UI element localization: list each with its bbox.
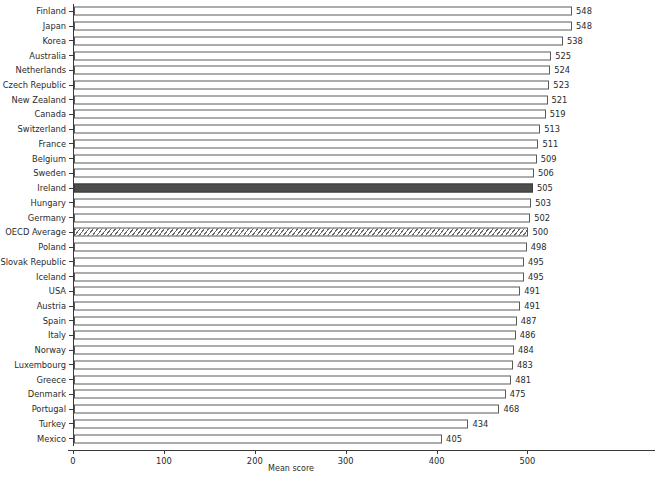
- bar-value-label: 525: [555, 51, 571, 60]
- bar-row: Finland548: [73, 4, 582, 19]
- bar-row: Korea538: [73, 33, 582, 48]
- bar-value-label: 500: [532, 228, 548, 237]
- y-tick: [69, 276, 73, 277]
- y-tick: [69, 40, 73, 41]
- bar: [74, 302, 520, 311]
- bar: [74, 95, 548, 104]
- y-tick: [69, 188, 73, 189]
- category-label: Belgium: [32, 154, 66, 163]
- category-label: Finland: [36, 7, 66, 16]
- y-tick: [69, 379, 73, 380]
- bar-row: Australia525: [73, 48, 582, 63]
- bar: [74, 272, 524, 281]
- category-label: Luxembourg: [14, 360, 66, 369]
- bar-row: Germany502: [73, 210, 582, 225]
- y-tick: [69, 335, 73, 336]
- y-tick: [69, 291, 73, 292]
- bar-row: Belgium509: [73, 151, 582, 166]
- bar-value-label: 548: [576, 7, 592, 16]
- category-label: Mexico: [37, 434, 66, 443]
- bar: [74, 213, 530, 222]
- category-label: Australia: [29, 51, 66, 60]
- bar-row: Italy486: [73, 328, 582, 343]
- bar-row: Austria491: [73, 299, 582, 314]
- bar: [74, 81, 549, 90]
- category-label: Hungary: [31, 198, 66, 207]
- y-tick: [69, 423, 73, 424]
- bar-value-label: 523: [553, 81, 569, 90]
- bar-row: Canada519: [73, 107, 582, 122]
- bar-value-label: 484: [518, 346, 534, 355]
- bar: [74, 331, 516, 340]
- bar: [74, 405, 499, 414]
- category-label: New Zealand: [11, 95, 66, 104]
- bar-value-label: 481: [515, 375, 531, 384]
- bar-row: New Zealand521: [73, 92, 582, 107]
- bar: [74, 316, 517, 325]
- bar-rows: Finland548Japan548Korea538Australia525Ne…: [73, 4, 582, 446]
- bar-row: Portugal468: [73, 402, 582, 417]
- bar-row: Poland498: [73, 240, 582, 255]
- y-tick: [69, 11, 73, 12]
- bar: [74, 198, 531, 207]
- y-tick: [69, 70, 73, 71]
- category-label: Slovak Republic: [0, 257, 66, 266]
- x-axis-title: Mean score: [0, 464, 582, 473]
- y-tick: [69, 232, 73, 233]
- category-label: Canada: [34, 110, 66, 119]
- bar: [74, 287, 520, 296]
- y-tick: [69, 247, 73, 248]
- category-label: Iceland: [36, 272, 66, 281]
- bar: [74, 7, 572, 16]
- bar-row: Iceland495: [73, 269, 582, 284]
- bar-row: Mexico405: [73, 431, 582, 446]
- bar-value-label: 503: [535, 198, 551, 207]
- category-label: USA: [49, 287, 66, 296]
- category-label: Czech Republic: [3, 81, 66, 90]
- bar-value-label: 498: [531, 243, 547, 252]
- y-tick: [69, 409, 73, 410]
- bar: [74, 346, 514, 355]
- bar-row: Turkey434: [73, 417, 582, 432]
- bar-value-label: 495: [528, 272, 544, 281]
- category-label: OECD Average: [5, 228, 66, 237]
- bar: [74, 390, 506, 399]
- bar: [74, 22, 572, 31]
- y-tick: [69, 55, 73, 56]
- bar: [74, 36, 563, 45]
- category-label: Denmark: [28, 390, 66, 399]
- bar: [74, 110, 546, 119]
- y-tick: [69, 158, 73, 159]
- bar-value-label: 483: [517, 360, 533, 369]
- bar: [74, 66, 550, 75]
- category-label: Norway: [35, 346, 66, 355]
- category-label: Poland: [38, 243, 66, 252]
- y-tick: [69, 26, 73, 27]
- bar: [74, 184, 533, 193]
- x-tick: [73, 450, 74, 454]
- x-tick: [437, 450, 438, 454]
- bar-row: Norway484: [73, 343, 582, 358]
- bar-value-label: 468: [503, 405, 519, 414]
- bar-value-label: 405: [446, 434, 462, 443]
- bar-value-label: 509: [541, 154, 557, 163]
- bar-value-label: 524: [554, 66, 570, 75]
- category-label: Japan: [43, 22, 66, 31]
- bar-row: Spain487: [73, 313, 582, 328]
- y-tick: [69, 173, 73, 174]
- category-label: Netherlands: [15, 66, 66, 75]
- bar-value-label: 475: [510, 390, 526, 399]
- category-label: Sweden: [33, 169, 66, 178]
- y-tick: [69, 202, 73, 203]
- bar: [74, 257, 524, 266]
- bar-value-label: 511: [542, 139, 558, 148]
- bar-value-label: 491: [524, 287, 540, 296]
- bar-value-label: 491: [524, 302, 540, 311]
- y-tick: [69, 143, 73, 144]
- bar-row: Hungary503: [73, 196, 582, 211]
- bar-value-label: 487: [521, 316, 537, 325]
- category-label: Germany: [28, 213, 66, 222]
- bar-row: Sweden506: [73, 166, 582, 181]
- y-tick: [69, 114, 73, 115]
- bar-row: Slovak Republic495: [73, 254, 582, 269]
